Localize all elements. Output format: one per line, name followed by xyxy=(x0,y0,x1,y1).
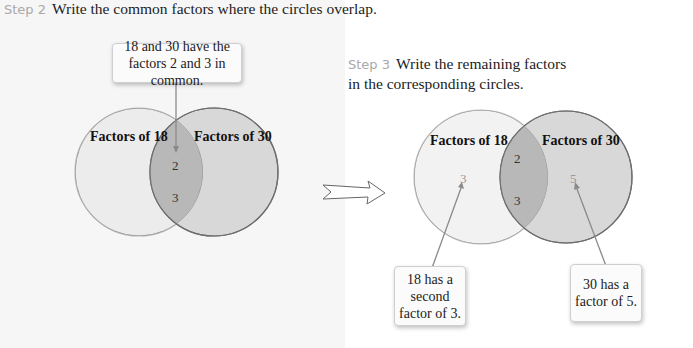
step3-callout-left: 18 has a second factor of 3. xyxy=(394,266,466,326)
step3-callout-left-text: 18 has a second factor of 3. xyxy=(395,271,465,322)
step2-label-18: Factors of 18 xyxy=(90,129,168,145)
transition-arrow-icon xyxy=(323,181,385,204)
step3-label-18: Factors of 18 xyxy=(430,133,508,149)
step2-overlap-value-2: 3 xyxy=(172,190,179,206)
step3-callout-right-text: 30 has a factor of 5. xyxy=(571,276,641,310)
step3-left-only-value: 3 xyxy=(460,171,467,187)
step3-overlap-value-1: 2 xyxy=(514,151,521,167)
step2-callout-text: 18 and 30 have the factors 2 and 3 in co… xyxy=(113,38,241,89)
step3-overlap-value-2: 3 xyxy=(514,193,521,209)
step2-callout: 18 and 30 have the factors 2 and 3 in co… xyxy=(112,43,242,83)
step3-callout-right: 30 has a factor of 5. xyxy=(570,264,642,322)
step2-label-30: Factors of 30 xyxy=(194,129,272,145)
step2-venn xyxy=(75,74,278,236)
step3-right-only-value: 5 xyxy=(570,171,577,187)
step2-overlap-value-1: 2 xyxy=(172,158,179,174)
step3-label-30: Factors of 30 xyxy=(542,133,620,149)
